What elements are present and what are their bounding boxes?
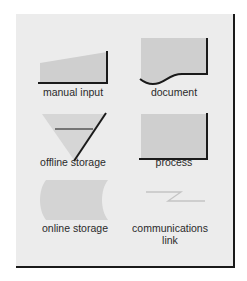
document-label: document — [124, 86, 224, 98]
offline-storage-label: offline storage — [23, 156, 123, 168]
online-storage-symbol — [40, 180, 108, 220]
process-symbol — [139, 113, 207, 159]
communications-link-label: communications link — [128, 222, 212, 246]
online-storage-label: online storage — [25, 222, 125, 234]
process-label: process — [124, 156, 224, 168]
communications-link-symbol — [146, 192, 205, 201]
offline-storage-symbol — [42, 113, 106, 161]
document-symbol — [140, 38, 207, 84]
manual-input-symbol — [38, 51, 107, 83]
manual-input-label: manual input — [23, 86, 123, 98]
